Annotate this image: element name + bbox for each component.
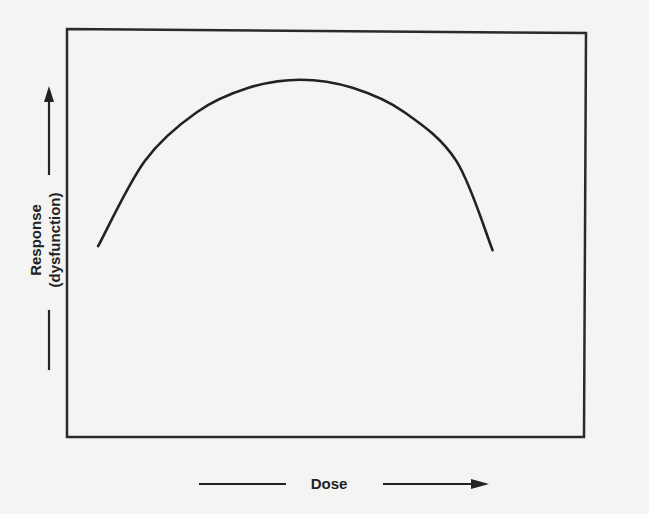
plot-frame — [67, 29, 586, 437]
y-axis-label: Response — [27, 204, 44, 276]
response-curve — [98, 80, 493, 251]
x-axis-arrowhead-icon — [471, 479, 489, 489]
y-axis-label-group: Response (dysfunction) — [27, 86, 63, 370]
x-axis-label: Dose — [311, 475, 348, 492]
dose-response-chart: Response (dysfunction) Dose — [0, 0, 649, 514]
y-axis-arrowhead-icon — [44, 86, 54, 102]
x-axis-label-group: Dose — [199, 475, 489, 492]
y-axis-sublabel: (dysfunction) — [46, 193, 63, 288]
